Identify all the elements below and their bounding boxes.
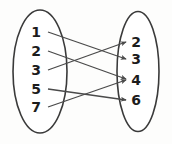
mapping-diagram: 1 2 3 5 7 2 3 4 6 bbox=[0, 0, 172, 144]
mapping-canvas: 1 2 3 5 7 2 3 4 6 bbox=[0, 0, 172, 144]
left-element-5: 5 bbox=[31, 81, 41, 97]
left-element-7: 7 bbox=[31, 99, 41, 115]
right-element-3: 3 bbox=[131, 51, 141, 67]
right-element-4: 4 bbox=[131, 72, 141, 88]
left-element-2: 2 bbox=[31, 43, 41, 59]
left-element-1: 1 bbox=[31, 24, 41, 40]
left-element-3: 3 bbox=[31, 62, 41, 78]
right-element-6: 6 bbox=[131, 92, 141, 108]
right-element-2: 2 bbox=[131, 34, 141, 50]
